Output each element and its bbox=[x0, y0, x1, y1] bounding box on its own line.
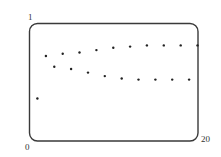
data-point bbox=[121, 77, 123, 79]
data-point bbox=[171, 78, 173, 80]
data-points bbox=[36, 44, 199, 100]
data-point bbox=[180, 44, 182, 46]
data-point bbox=[137, 78, 139, 80]
x-max-label: 20 bbox=[201, 134, 211, 144]
data-point bbox=[188, 78, 190, 80]
data-point bbox=[146, 44, 148, 46]
data-point bbox=[53, 66, 55, 68]
data-point bbox=[129, 45, 131, 47]
data-point bbox=[45, 55, 47, 57]
data-point bbox=[70, 68, 72, 70]
data-point bbox=[95, 49, 97, 51]
data-point bbox=[78, 51, 80, 53]
y-max-label: 1 bbox=[28, 12, 33, 22]
data-point bbox=[36, 97, 38, 99]
data-point bbox=[154, 78, 156, 80]
data-point bbox=[112, 47, 114, 49]
data-point bbox=[87, 71, 89, 73]
data-point bbox=[62, 53, 64, 55]
data-point bbox=[196, 44, 198, 46]
data-point bbox=[104, 75, 106, 77]
data-point bbox=[163, 44, 165, 46]
plot-frame bbox=[30, 24, 199, 142]
origin-label: 0 bbox=[25, 142, 30, 152]
scatter-chart: 1 0 20 bbox=[0, 0, 221, 157]
